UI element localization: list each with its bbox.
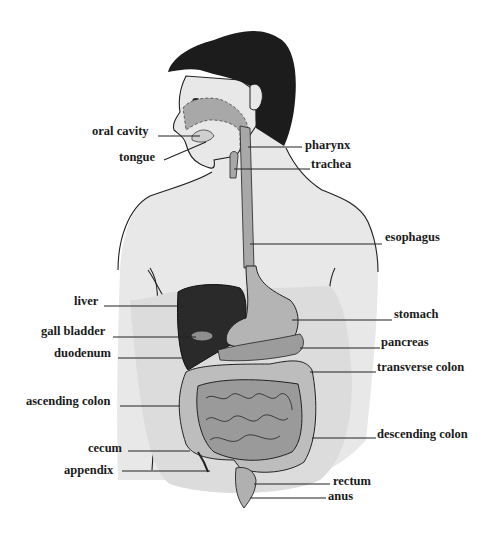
label-ascending-colon: ascending colon: [26, 394, 110, 408]
label-duodenum: duodenum: [54, 346, 111, 360]
label-esophagus: esophagus: [385, 230, 440, 244]
label-liver: liver: [74, 294, 98, 308]
label-stomach: stomach: [394, 307, 438, 321]
rectum-shape: [235, 468, 256, 509]
label-rectum: rectum: [333, 474, 371, 488]
label-appendix: appendix: [64, 463, 113, 477]
label-transverse-colon: transverse colon: [377, 360, 464, 374]
label-gall-bladder: gall bladder: [41, 324, 105, 338]
label-cecum: cecum: [88, 441, 122, 455]
label-anus: anus: [328, 489, 353, 503]
label-pharynx: pharynx: [305, 138, 350, 152]
label-trachea: trachea: [311, 157, 351, 171]
label-descending-colon: descending colon: [377, 427, 468, 441]
gall-bladder-shape: [191, 331, 213, 341]
label-pancreas: pancreas: [381, 335, 429, 349]
digestive-system-illustration: [0, 0, 495, 536]
label-oral-cavity: oral cavity: [92, 124, 149, 138]
label-tongue: tongue: [119, 150, 155, 164]
